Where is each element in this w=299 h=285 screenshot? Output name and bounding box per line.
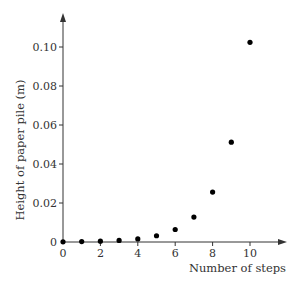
x-tick-label: 8 [209, 247, 216, 260]
x-tick-label: 6 [172, 247, 179, 260]
data-points [60, 40, 252, 245]
y-axis-label: Height of paper pile (m) [13, 80, 27, 221]
x-tick-label: 0 [60, 247, 67, 260]
x-tick-label: 4 [134, 247, 141, 260]
y-axis-arrow-icon [60, 13, 66, 22]
x-ticks: 0246810 [60, 242, 258, 260]
y-tick-label: 0.10 [33, 41, 58, 54]
x-axis-label: Number of steps [189, 261, 286, 275]
y-ticks: 00.020.040.060.080.10 [33, 41, 64, 249]
y-tick-label: 0.06 [33, 119, 58, 132]
data-point [247, 40, 252, 45]
data-point [154, 233, 159, 238]
data-point [135, 236, 140, 241]
data-point [210, 189, 215, 194]
x-axis-arrow-icon [278, 239, 287, 245]
axes [60, 13, 287, 245]
scatter-chart: 0246810 00.020.040.060.080.10 Number of … [0, 0, 299, 285]
data-point [79, 239, 84, 244]
y-tick-label: 0.08 [33, 80, 58, 93]
data-point [191, 214, 196, 219]
y-tick-label: 0.02 [33, 197, 58, 210]
x-tick-label: 10 [243, 247, 257, 260]
data-point [117, 238, 122, 243]
data-point [60, 239, 65, 244]
data-point [173, 227, 178, 232]
x-tick-label: 2 [97, 247, 104, 260]
y-tick-label: 0.04 [33, 158, 58, 171]
data-point [229, 140, 234, 145]
y-tick-label: 0 [50, 236, 57, 249]
data-point [98, 239, 103, 244]
